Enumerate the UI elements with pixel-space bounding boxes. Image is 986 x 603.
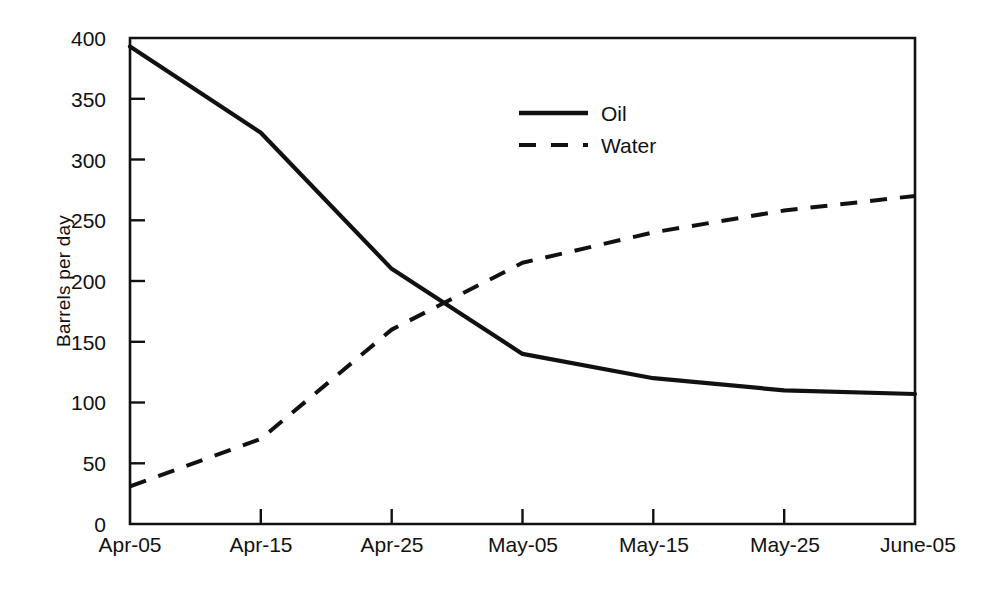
chart-figure: Barrels per day 0 50 100 150 200 250 300… — [0, 0, 986, 603]
x-tick-marks — [261, 509, 784, 524]
y-tick-marks — [130, 99, 145, 464]
series-line-oil — [130, 47, 915, 395]
plot-canvas — [0, 0, 986, 603]
series-line-water — [130, 196, 915, 486]
